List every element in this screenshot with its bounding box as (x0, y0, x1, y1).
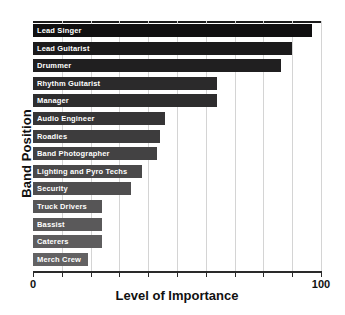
bar-row: Band Photographer (33, 147, 321, 160)
x-tick (62, 271, 63, 277)
x-axis-title: Level of Importance (33, 288, 321, 303)
bar-chart: Band Position Lead SingerLead GuitaristD… (0, 0, 345, 315)
x-tick (321, 271, 322, 277)
bar-category-label: Drummer (37, 59, 71, 72)
gridline (321, 21, 322, 271)
bar-row: Truck Drivers (33, 200, 321, 213)
bar-category-label: Lead Guitarist (37, 42, 90, 55)
bar-category-label: Lighting and Pyro Techs (37, 165, 127, 178)
x-tick (91, 271, 92, 277)
bar-category-label: Truck Drivers (37, 200, 87, 213)
plot-area: Lead SingerLead GuitaristDrummerRhythm G… (33, 21, 321, 271)
bar-category-label: Band Photographer (37, 147, 110, 160)
bar-row: Lighting and Pyro Techs (33, 165, 321, 178)
bar-row: Lead Guitarist (33, 42, 321, 55)
bar-row: Security (33, 182, 321, 195)
bar-row: Roadies (33, 130, 321, 143)
bar-row: Lead Singer (33, 24, 321, 37)
x-tick (33, 271, 34, 277)
x-tick (177, 271, 178, 277)
bar-category-label: Security (37, 182, 68, 195)
x-tick (206, 271, 207, 277)
bar-row: Merch Crew (33, 253, 321, 266)
bar-category-label: Audio Engineer (37, 112, 95, 125)
x-tick (119, 271, 120, 277)
bar-category-label: Merch Crew (37, 253, 81, 266)
bar-row: Bassist (33, 218, 321, 231)
bar-category-label: Roadies (37, 130, 67, 143)
x-tick (292, 271, 293, 277)
bar-category-label: Bassist (37, 218, 65, 231)
y-axis-title: Band Position (19, 84, 34, 224)
bar-row: Caterers (33, 235, 321, 248)
bar-row: Drummer (33, 59, 321, 72)
x-tick (235, 271, 236, 277)
bar-category-label: Lead Singer (37, 24, 82, 37)
x-tick (263, 271, 264, 277)
bar-row: Manager (33, 94, 321, 107)
bar-category-label: Caterers (37, 235, 69, 248)
bar-category-label: Manager (37, 94, 69, 107)
bar-row: Audio Engineer (33, 112, 321, 125)
bar-row: Rhythm Guitarist (33, 77, 321, 90)
x-tick (148, 271, 149, 277)
bar-category-label: Rhythm Guitarist (37, 77, 100, 90)
